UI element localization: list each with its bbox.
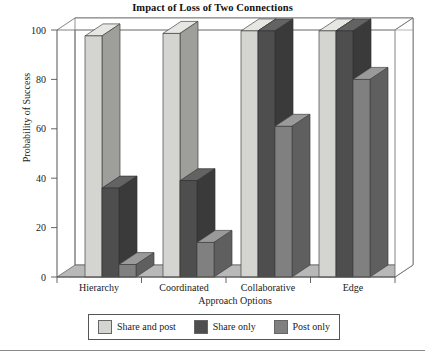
legend-label-share-and-post: Share and post [117, 322, 176, 332]
legend-item-share-and-post[interactable]: Share and post [98, 320, 176, 334]
category-label-collaborative: Collaborative [241, 282, 296, 293]
ytick-label-40: 40 [36, 173, 46, 184]
y-axis: 100 80 60 40 20 0 [31, 25, 57, 283]
legend-swatch-post-only [274, 320, 288, 334]
category-label-coordinated: Coordinated [159, 282, 208, 293]
ytick-label-100: 100 [31, 25, 46, 36]
ytick-label-60: 60 [36, 123, 46, 134]
category-label-edge: Edge [343, 282, 364, 293]
legend-item-share-only[interactable]: Share only [194, 320, 256, 334]
legend-label-post-only: Post only [293, 322, 331, 332]
legend-swatch-share-only [194, 320, 208, 334]
legend-item-post-only[interactable]: Post only [274, 320, 331, 334]
ytick-label-80: 80 [36, 74, 46, 85]
bar-edge-post-only[interactable] [353, 67, 388, 277]
right-side-wall [395, 18, 413, 277]
x-axis-title: Approach Options [57, 295, 413, 306]
footer-divider [0, 350, 425, 351]
bar-collaborative-post-only[interactable] [275, 114, 310, 277]
ytick-label-20: 20 [36, 222, 46, 233]
chart-legend: Share and post Share only Post only [88, 314, 340, 340]
ytick-label-0: 0 [41, 272, 46, 283]
category-label-hierarchy: Hierarchy [79, 282, 119, 293]
y-axis-title: Probability of Success [21, 48, 32, 188]
chart-figure: Impact of Loss of Two Connections [0, 0, 425, 359]
legend-swatch-share-and-post [98, 320, 112, 334]
x-axis-category-labels: Hierarchy Coordinated Collaborative Edge [79, 282, 364, 293]
legend-label-share-only: Share only [213, 322, 256, 332]
bar-chart-plot: 100 80 60 40 20 0 [0, 0, 425, 300]
